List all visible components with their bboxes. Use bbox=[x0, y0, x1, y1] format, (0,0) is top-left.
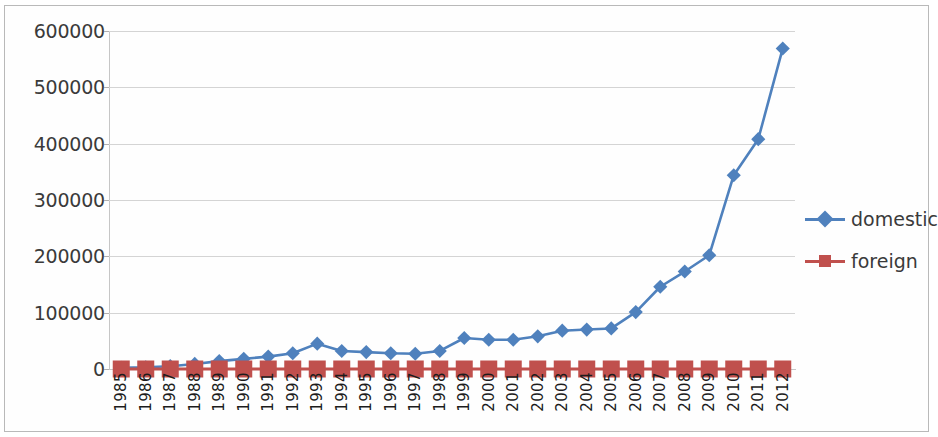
category-axis-tick-label: 1999 bbox=[455, 372, 473, 412]
data-point-domestic-2008[interactable] bbox=[678, 264, 692, 278]
value-axis-tick-label: 0 bbox=[9, 358, 105, 380]
data-point-domestic-1992[interactable] bbox=[286, 346, 300, 360]
category-axis-tick-label: 1991 bbox=[259, 372, 277, 412]
category-axis-tick-label: 2004 bbox=[578, 372, 596, 412]
category-axis-tick-label: 1987 bbox=[161, 372, 179, 412]
data-point-domestic-2000[interactable] bbox=[482, 333, 496, 347]
category-axis-tick-label: 2005 bbox=[602, 372, 620, 412]
category-axis-tick-label: 2011 bbox=[749, 372, 767, 412]
data-point-domestic-1999[interactable] bbox=[457, 331, 471, 345]
category-axis-tick-label: 2000 bbox=[480, 372, 498, 412]
legend-item-domestic[interactable]: domestic bbox=[805, 198, 930, 240]
category-axis-tick-label: 1988 bbox=[186, 372, 204, 412]
category-axis-tick-label: 2010 bbox=[725, 372, 743, 412]
value-axis-tick-label: 100000 bbox=[9, 302, 105, 324]
data-series-layer bbox=[109, 31, 795, 371]
data-point-domestic-2003[interactable] bbox=[555, 324, 569, 338]
category-axis-tick-label: 2009 bbox=[700, 372, 718, 412]
data-point-domestic-2004[interactable] bbox=[580, 322, 594, 336]
category-axis-tick-label: 1989 bbox=[210, 372, 228, 412]
category-axis-tick-label: 2007 bbox=[651, 372, 669, 412]
data-point-domestic-2001[interactable] bbox=[506, 333, 520, 347]
category-axis-tick-label: 1992 bbox=[284, 372, 302, 412]
category-axis-tick-label: 1995 bbox=[357, 372, 375, 412]
value-axis-tick-label: 500000 bbox=[9, 76, 105, 98]
legend-key-foreign-icon bbox=[805, 254, 845, 268]
legend-label-domestic: domestic bbox=[851, 208, 938, 230]
value-axis-tick-label: 200000 bbox=[9, 245, 105, 267]
data-point-domestic-2009[interactable] bbox=[702, 248, 716, 262]
category-axis-tick-label: 1986 bbox=[137, 372, 155, 412]
chart-legend: domestic foreign bbox=[805, 198, 930, 282]
data-point-domestic-1998[interactable] bbox=[433, 344, 447, 358]
data-point-domestic-2011[interactable] bbox=[751, 132, 765, 146]
data-point-domestic-1994[interactable] bbox=[335, 344, 349, 358]
data-point-domestic-2012[interactable] bbox=[776, 41, 790, 55]
data-point-domestic-2010[interactable] bbox=[727, 168, 741, 182]
data-point-domestic-1996[interactable] bbox=[384, 346, 398, 360]
category-axis-tick-label: 1985 bbox=[112, 372, 130, 412]
series-line-domestic bbox=[121, 48, 783, 367]
category-axis-tick-label: 1998 bbox=[431, 372, 449, 412]
legend-key-domestic-icon bbox=[805, 212, 845, 226]
data-point-domestic-1997[interactable] bbox=[408, 347, 422, 361]
category-axis-tick-label: 2012 bbox=[774, 372, 792, 412]
category-axis-tick-label: 1994 bbox=[333, 372, 351, 412]
value-axis-tick-label: 600000 bbox=[9, 20, 105, 42]
data-point-domestic-2002[interactable] bbox=[531, 329, 545, 343]
data-point-domestic-1993[interactable] bbox=[310, 337, 324, 351]
category-axis-tick-label: 2001 bbox=[504, 372, 522, 412]
category-axis-tick-label: 2003 bbox=[553, 372, 571, 412]
chart-frame: 6000005000004000003000002000001000000 19… bbox=[4, 5, 929, 432]
category-axis-tick-label: 1990 bbox=[235, 372, 253, 412]
value-axis-tick-label: 300000 bbox=[9, 189, 105, 211]
legend-item-foreign[interactable]: foreign bbox=[805, 240, 930, 282]
value-axis-labels: 6000005000004000003000002000001000000 bbox=[5, 6, 105, 437]
value-axis-tick-label: 400000 bbox=[9, 133, 105, 155]
category-axis-tick-label: 1993 bbox=[308, 372, 326, 412]
category-axis-tick-label: 1997 bbox=[406, 372, 424, 412]
category-axis-labels: 1985198619871988198919901991199219931994… bbox=[109, 372, 799, 437]
legend-label-foreign: foreign bbox=[851, 250, 918, 272]
category-axis-tick-label: 2002 bbox=[529, 372, 547, 412]
data-point-domestic-1995[interactable] bbox=[359, 345, 373, 359]
category-axis-tick-label: 1996 bbox=[382, 372, 400, 412]
category-axis-tick-label: 2008 bbox=[676, 372, 694, 412]
data-point-domestic-2005[interactable] bbox=[604, 321, 618, 335]
category-axis-tick-label: 2006 bbox=[627, 372, 645, 412]
